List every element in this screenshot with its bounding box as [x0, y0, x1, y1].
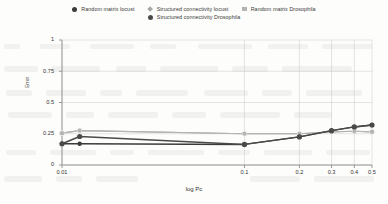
legend-item-random-matrix-locust[interactable]: Random matrix locust [72, 6, 134, 12]
legend-marker-circle-icon [148, 15, 153, 20]
chart-legend: Random matrix locust Structured connecti… [0, 6, 388, 20]
legend-label: Random matrix Drosophila [251, 6, 316, 12]
x-tick-label: 0.1 [241, 169, 249, 175]
x-tick-label: 0.3 [328, 169, 336, 175]
legend-item-structured-connectivity-drosophila[interactable]: Structured connectivity Drosophila [148, 14, 241, 20]
x-tick-label: 0.2 [295, 169, 303, 175]
legend-label: Structured connectivity locust [157, 6, 229, 12]
x-tick-label: 0.5 [368, 169, 376, 175]
legend-marker-square-icon [242, 7, 246, 11]
legend-item-structured-connectivity-locust[interactable]: Structured connectivity locust [148, 6, 228, 12]
x-axis-ticks: 0.010.10.20.30.40.5 [0, 0, 388, 204]
y-axis-title: Error [24, 77, 30, 88]
plot-area: 00.250.50.751 0.010.10.20.30.40.5 Error … [0, 0, 388, 204]
x-axis-title: log Pc [0, 186, 388, 192]
chart-figure: Random matrix locust Structured connecti… [0, 0, 388, 204]
x-tick-label: 0.01 [57, 169, 68, 175]
x-tick-label: 0.4 [350, 169, 358, 175]
legend-marker-diamond-icon [148, 6, 154, 12]
legend-item-random-matrix-drosophila[interactable]: Random matrix Drosophila [242, 6, 315, 12]
legend-row-1: Random matrix locust Structured connecti… [72, 6, 315, 12]
legend-marker-circle-icon [72, 7, 77, 12]
legend-label: Structured connectivity Drosophila [157, 14, 241, 20]
legend-row-2: Structured connectivity Drosophila [148, 14, 241, 20]
legend-label: Random matrix locust [81, 6, 134, 12]
